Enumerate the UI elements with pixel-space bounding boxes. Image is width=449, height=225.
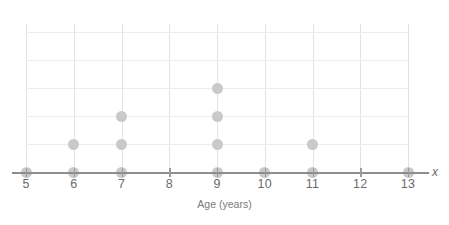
- x-axis-tick-label: 9: [202, 177, 232, 191]
- x-axis-tick: [313, 168, 314, 177]
- data-point-dot: [212, 83, 223, 94]
- x-axis-tick-label: 13: [393, 177, 423, 191]
- gridline-vertical: [313, 24, 314, 173]
- x-axis-tick-label: 8: [154, 177, 184, 191]
- gridline-vertical: [408, 24, 409, 173]
- gridline-horizontal: [26, 32, 408, 33]
- x-axis-tick: [217, 168, 218, 177]
- x-axis-tick-label: 7: [107, 177, 137, 191]
- dot-plot-figure: 5678910111213 x Age (years): [0, 0, 449, 225]
- gridline-vertical: [217, 24, 218, 173]
- x-axis-tick-label: 6: [59, 177, 89, 191]
- x-axis-tick: [26, 168, 27, 177]
- x-axis-tick: [360, 168, 361, 177]
- data-point-dot: [116, 111, 127, 122]
- x-axis-tick-label: 10: [250, 177, 280, 191]
- x-axis-tick: [265, 168, 266, 177]
- data-point-dot: [307, 139, 318, 150]
- x-axis-tick-label: 11: [298, 177, 328, 191]
- gridline-vertical: [265, 24, 266, 173]
- gridline-vertical: [26, 24, 27, 173]
- x-axis-tick: [74, 168, 75, 177]
- x-axis-tick: [122, 168, 123, 177]
- data-point-dot: [116, 139, 127, 150]
- data-point-dot: [212, 111, 223, 122]
- x-axis-tick: [408, 168, 409, 177]
- gridline-horizontal: [26, 60, 408, 61]
- gridline-vertical: [360, 24, 361, 173]
- x-axis-tick-label: 5: [11, 177, 41, 191]
- plot-area: [26, 24, 408, 173]
- data-point-dot: [68, 139, 79, 150]
- data-point-dot: [212, 139, 223, 150]
- x-axis-title: Age (years): [0, 198, 449, 210]
- x-axis-variable-label: x: [432, 165, 438, 179]
- x-axis-tick-label: 12: [345, 177, 375, 191]
- x-axis-tick: [169, 168, 170, 177]
- gridline-vertical: [169, 24, 170, 173]
- gridline-vertical: [74, 24, 75, 173]
- gridline-vertical: [122, 24, 123, 173]
